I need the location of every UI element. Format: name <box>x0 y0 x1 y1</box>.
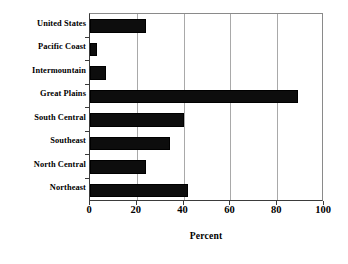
bars-layer <box>90 14 322 200</box>
y-tick-label-4: South Central <box>0 113 86 123</box>
bar-row <box>90 19 322 33</box>
bar-row <box>90 160 322 174</box>
bar-pacific-coast <box>90 43 97 57</box>
x-axis-labels: 020406080100 <box>0 204 348 220</box>
bar-row <box>90 66 322 80</box>
plot-area <box>89 13 323 201</box>
bar-southeast <box>90 137 170 151</box>
x-tick-label-20: 20 <box>131 204 142 215</box>
bar-south-central <box>90 113 184 127</box>
bar-row <box>90 137 322 151</box>
x-axis-title: Percent <box>89 230 323 241</box>
x-tick-label-80: 80 <box>271 204 282 215</box>
bar-northeast <box>90 184 188 198</box>
x-tick-label-0: 0 <box>86 204 91 215</box>
y-tick-label-0: United States <box>0 19 86 29</box>
bar-row <box>90 43 322 57</box>
bar-north-central <box>90 160 146 174</box>
x-tick-label-40: 40 <box>177 204 188 215</box>
y-tick-label-3: Great Plains <box>0 89 86 99</box>
y-tick-label-2: Intermountain <box>0 66 86 76</box>
y-axis-labels: United States Pacific Coast Intermountai… <box>0 12 86 202</box>
y-tick-label-7: Northeast <box>0 183 86 193</box>
x-tick-label-100: 100 <box>315 204 331 215</box>
x-tick-label-60: 60 <box>224 204 235 215</box>
bar-intermountain <box>90 66 106 80</box>
bar-row <box>90 184 322 198</box>
bar-row <box>90 90 322 104</box>
bar-great-plains <box>90 90 298 104</box>
bar-row <box>90 113 322 127</box>
y-tick-label-6: North Central <box>0 160 86 170</box>
bar-chart: United States Pacific Coast Intermountai… <box>0 0 348 264</box>
y-tick-label-1: Pacific Coast <box>0 42 86 52</box>
y-tick-label-5: Southeast <box>0 136 86 146</box>
bar-united-states <box>90 19 146 33</box>
